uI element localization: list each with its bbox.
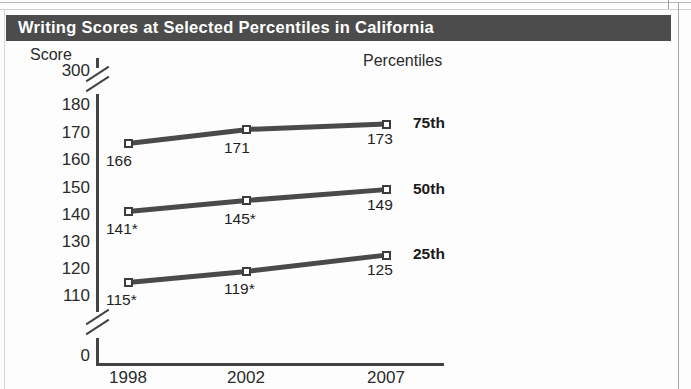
data-point-marker [382, 185, 391, 194]
data-point-marker [382, 120, 391, 129]
data-point-marker [124, 139, 133, 148]
plot-area: Score 3001801701601501401301201100 Perce… [0, 0, 691, 389]
y-tick-label: 140 [30, 205, 90, 225]
x-tick-label: 2007 [341, 368, 431, 388]
y-tick-label: 180 [30, 95, 90, 115]
data-point-marker [382, 251, 391, 260]
data-point-label: 125 [367, 261, 393, 279]
series-line-segment [246, 122, 386, 132]
data-point-marker [124, 278, 133, 287]
legend-heading: Percentiles [363, 52, 442, 70]
y-tick-label: 120 [30, 259, 90, 279]
x-tick-label: 2002 [201, 368, 291, 388]
data-point-marker [242, 196, 251, 205]
y-tick-label: 300 [30, 61, 90, 81]
data-point-label: 171 [224, 139, 250, 157]
data-point-marker [124, 207, 133, 216]
data-point-label: 115* [106, 291, 137, 309]
y-tick-label: 0 [30, 346, 90, 366]
y-tick-label: 150 [30, 178, 90, 198]
series-label-25th: 25th [413, 245, 445, 263]
data-point-label: 141* [106, 220, 138, 238]
y-tick-label: 130 [30, 232, 90, 252]
data-point-label: 149 [367, 196, 393, 214]
y-tick-labels: 3001801701601501401301201100 [22, 0, 90, 389]
data-point-label: 173 [367, 130, 393, 148]
data-point-marker [242, 267, 251, 276]
x-tick-label: 1998 [83, 368, 173, 388]
y-tick-label: 160 [30, 150, 90, 170]
y-tick-label: 170 [30, 123, 90, 143]
data-point-label: 145* [224, 210, 256, 228]
y-tick-label: 110 [30, 286, 90, 306]
chart-figure: Writing Scores at Selected Percentiles i… [0, 0, 691, 389]
x-axis-line [96, 363, 444, 366]
data-point-label: 119* [224, 280, 255, 298]
series-label-50th: 50th [413, 180, 445, 198]
series-line-segment [246, 187, 386, 203]
series-label-75th: 75th [413, 114, 445, 132]
series-line-segment [246, 253, 387, 274]
data-point-label: 166 [106, 152, 132, 170]
data-point-marker [242, 125, 251, 134]
